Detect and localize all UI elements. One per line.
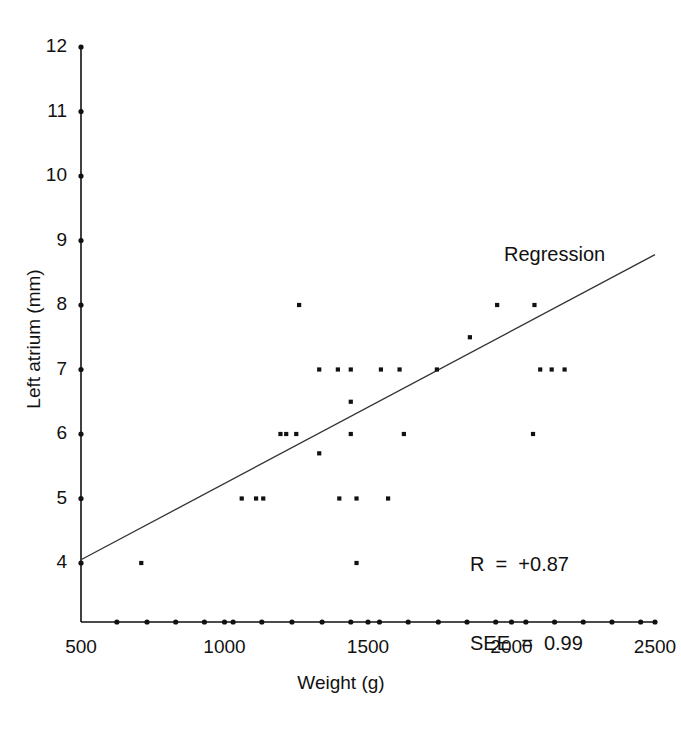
- y-axis-title: Left atrium (mm): [23, 229, 45, 449]
- data-point: [435, 367, 439, 371]
- data-point: [349, 400, 353, 404]
- data-point: [386, 496, 390, 500]
- statistics-annotation: R = +0.87 SEE = 0.99: [470, 498, 583, 709]
- data-point: [402, 432, 406, 436]
- data-point: [317, 451, 321, 455]
- y-tick-mark: [78, 367, 83, 372]
- correlation-value: R = +0.87: [470, 551, 583, 577]
- data-point: [349, 367, 353, 371]
- data-point: [139, 561, 143, 565]
- y-tick-label: 5: [5, 487, 67, 509]
- data-point: [254, 496, 258, 500]
- regression-line-label: Regression: [504, 243, 605, 266]
- x-tick-mark: [144, 619, 149, 624]
- x-tick-mark: [365, 619, 370, 624]
- y-tick-mark: [78, 560, 83, 565]
- data-point: [495, 303, 499, 307]
- y-tick-mark: [78, 238, 83, 243]
- data-point: [294, 432, 298, 436]
- x-tick-mark: [464, 619, 469, 624]
- x-tick-mark: [609, 619, 614, 624]
- data-point: [278, 432, 282, 436]
- y-tick-mark: [78, 496, 83, 501]
- x-axis-title: Weight (g): [241, 672, 441, 694]
- data-point: [550, 367, 554, 371]
- x-tick-label: 500: [36, 636, 126, 658]
- data-point: [354, 561, 358, 565]
- data-point: [261, 496, 265, 500]
- data-point: [532, 303, 536, 307]
- data-point: [349, 432, 353, 436]
- y-tick-label: 10: [5, 164, 67, 186]
- data-point: [538, 367, 542, 371]
- x-tick-mark: [222, 619, 227, 624]
- data-point: [336, 367, 340, 371]
- x-tick-mark: [377, 619, 382, 624]
- x-tick-mark: [319, 619, 324, 624]
- y-tick-mark: [78, 44, 83, 49]
- data-point: [562, 367, 566, 371]
- x-tick-mark: [638, 619, 643, 624]
- x-tick-mark: [114, 619, 119, 624]
- data-point: [297, 303, 301, 307]
- x-tick-mark: [231, 619, 236, 624]
- data-point: [379, 367, 383, 371]
- y-tick-mark: [78, 302, 83, 307]
- y-tick-label: 4: [5, 551, 67, 573]
- x-tick-mark: [436, 619, 441, 624]
- x-tick-mark: [652, 619, 657, 624]
- data-point: [284, 432, 288, 436]
- y-tick-mark: [78, 173, 83, 178]
- data-point: [531, 432, 535, 436]
- data-point: [240, 496, 244, 500]
- see-value: SEE = 0.99: [470, 630, 583, 656]
- x-tick-mark: [406, 619, 411, 624]
- data-point: [354, 496, 358, 500]
- data-point: [337, 496, 341, 500]
- data-point: [468, 335, 472, 339]
- x-tick-mark: [348, 619, 353, 624]
- x-tick-label: 1000: [180, 636, 270, 658]
- y-tick-mark: [78, 431, 83, 436]
- x-tick-label: 2500: [610, 636, 681, 658]
- x-tick-mark: [202, 619, 207, 624]
- y-tick-mark: [78, 109, 83, 114]
- x-tick-label: 1500: [323, 636, 413, 658]
- data-point: [397, 367, 401, 371]
- x-tick-mark: [259, 619, 264, 624]
- y-tick-label: 11: [5, 100, 67, 122]
- scatter-plot-figure: 4567891011125001000150020002500 Left atr…: [0, 0, 681, 730]
- x-tick-mark: [173, 619, 178, 624]
- data-point: [317, 367, 321, 371]
- y-tick-label: 12: [5, 35, 67, 57]
- x-tick-mark: [289, 619, 294, 624]
